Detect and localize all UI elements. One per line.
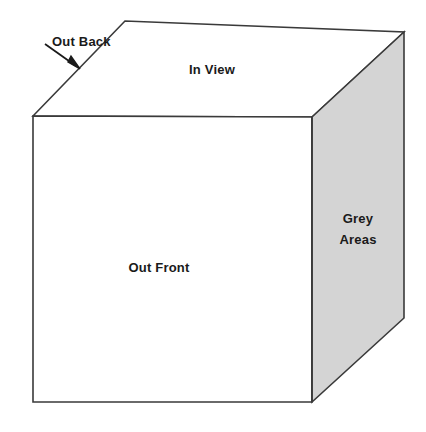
diagram-canvas: In View Out Front Grey Areas Out Back	[0, 0, 426, 432]
out-back-arrow-head	[68, 56, 80, 69]
cube-front-face	[33, 116, 312, 402]
cube-illustration	[0, 0, 426, 432]
